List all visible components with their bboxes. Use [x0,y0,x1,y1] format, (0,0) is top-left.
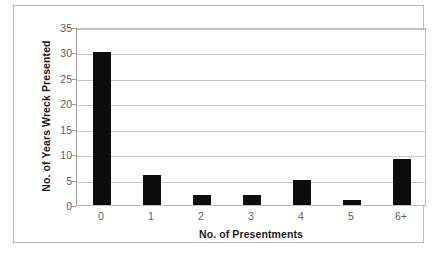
bar-series [77,29,425,205]
x-axis-tick-label: 0 [76,210,126,222]
bar[interactable] [193,195,211,205]
x-axis-title: No. of Presentments [76,228,426,240]
y-axis-tick-label: 5 [26,176,72,186]
bar-slot [177,29,227,205]
bar-slot [227,29,277,205]
bar[interactable] [93,52,111,205]
y-axis-tick-label: 35 [26,23,72,33]
bar[interactable] [343,200,361,205]
x-axis-tick-label: 4 [276,210,326,222]
chart-frame: No. of Years Wreck Presented 05101520253… [13,5,424,243]
y-axis-tick-label: 15 [26,125,72,135]
plot-area [76,28,426,206]
bar-slot [77,29,127,205]
y-axis-tick-label: 0 [26,201,72,211]
x-axis-tick-label: 3 [226,210,276,222]
bar[interactable] [393,159,411,205]
x-axis-tick-label: 5 [326,210,376,222]
y-axis-tick-label: 10 [26,150,72,160]
x-axis-tick-label: 6+ [376,210,426,222]
y-axis-tick-label: 30 [26,48,72,58]
bar[interactable] [243,195,261,205]
y-axis-tick-mark [72,206,76,207]
bar-slot [377,29,427,205]
bar[interactable] [293,180,311,205]
x-axis-tick-label: 2 [176,210,226,222]
bar[interactable] [143,175,161,206]
bar-slot [277,29,327,205]
x-axis-tick-label: 1 [126,210,176,222]
y-axis-tick-label: 25 [26,74,72,84]
bar-slot [327,29,377,205]
bar-slot [127,29,177,205]
y-axis-tick-label: 20 [26,99,72,109]
x-axis-tick-labels: 0123456+ [76,210,426,226]
y-axis-tick-labels: 05101520253035 [22,28,72,206]
figure: No. of Years Wreck Presented 05101520253… [0,0,432,258]
